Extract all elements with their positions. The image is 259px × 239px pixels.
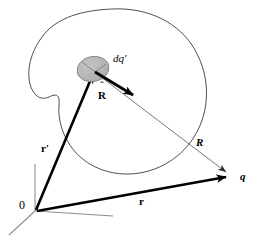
label-unit-vector: R [98,89,107,101]
label-separation-distance: R [195,136,203,148]
label-charge-element: dq′ [113,52,127,64]
axis-x-foreground [9,211,35,235]
label-unit-vector-group: ˆ R [98,80,107,101]
axis-y-horizontal [35,211,113,216]
label-field-vector: r [139,195,144,207]
label-field-point-charge: q [240,170,246,182]
label-origin: 0 [19,198,25,212]
field-vector-r [37,177,226,211]
label-source-vector: r′ [41,142,49,154]
diagram-canvas: dq′ ˆ R r′ R q r 0 [0,0,259,239]
charge-volume-outline [29,9,207,174]
vector-diagram-figure: dq′ ˆ R r′ R q r 0 [0,0,259,239]
